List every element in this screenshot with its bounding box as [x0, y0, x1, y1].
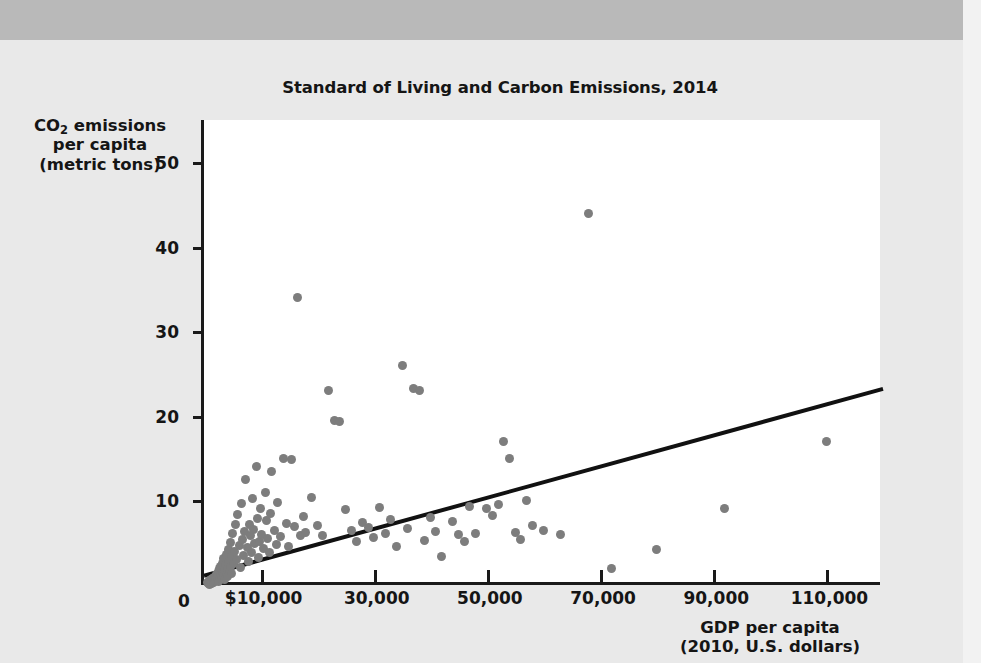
- scatter-point: [284, 542, 293, 551]
- scatter-point: [244, 557, 253, 566]
- scatter-point: [313, 521, 322, 530]
- y-axis-tick: 10: [193, 500, 204, 503]
- x-tick-label-zero: 0: [178, 591, 190, 611]
- y-axis-label-co: CO: [34, 116, 60, 135]
- scatter-point: [253, 514, 262, 523]
- scatter-point: [528, 521, 537, 530]
- scatter-point: [227, 569, 236, 578]
- y-axis-label-subscript: 2: [60, 123, 68, 137]
- scatter-point: [231, 520, 240, 529]
- scatter-point: [293, 293, 302, 302]
- chart-figure: Standard of Living and Carbon Emissions,…: [0, 40, 963, 663]
- scatter-point: [228, 529, 237, 538]
- scatter-point: [437, 552, 446, 561]
- scatter-point: [460, 537, 469, 546]
- x-axis-title-line1: GDP per capita: [600, 618, 940, 637]
- x-axis-title-line2: (2010, U.S. dollars): [600, 637, 940, 656]
- page-right-margin: [963, 0, 981, 663]
- scatter-point: [236, 563, 245, 572]
- y-axis-tick-label: 30: [155, 322, 179, 342]
- scatter-point: [307, 493, 316, 502]
- figure-page: Standard of Living and Carbon Emissions,…: [0, 0, 981, 663]
- scatter-point: [556, 530, 565, 539]
- scatter-point: [415, 386, 424, 395]
- y-axis-tick-label: 20: [155, 407, 179, 427]
- scatter-point: [261, 488, 270, 497]
- scatter-point: [252, 462, 261, 471]
- y-axis-tick-label: 50: [155, 153, 179, 173]
- scatter-point: [254, 553, 263, 562]
- scatter-point: [607, 564, 616, 573]
- scatter-point: [426, 513, 435, 522]
- scatter-point: [522, 496, 531, 505]
- x-axis-tick: 110,000: [826, 570, 829, 583]
- x-axis-tick: 30,000: [374, 570, 377, 583]
- scatter-point: [273, 498, 282, 507]
- scatter-point: [318, 531, 327, 540]
- y-axis-tick-label: 10: [155, 491, 179, 511]
- x-axis-tick: 90,000: [713, 570, 716, 583]
- chart-title: Standard of Living and Carbon Emissions,…: [200, 78, 800, 97]
- x-axis-title: GDP per capita (2010, U.S. dollars): [600, 618, 940, 657]
- x-axis-tick-label: 110,000: [791, 588, 868, 608]
- scatter-point: [505, 454, 514, 463]
- y-axis-title-line2: per capita: [10, 135, 190, 154]
- scatter-point: [265, 548, 274, 557]
- y-axis-title-line1: CO2 emissions: [10, 116, 190, 135]
- y-axis-tick: 20: [193, 416, 204, 419]
- page-header-band: [0, 0, 963, 40]
- scatter-point: [375, 503, 384, 512]
- x-axis-tick-label: 70,000: [570, 588, 636, 608]
- scatter-point: [364, 523, 373, 532]
- scatter-point: [381, 529, 390, 538]
- scatter-point: [324, 386, 333, 395]
- y-axis-tick: 50: [193, 162, 204, 165]
- x-axis-tick-label: 50,000: [457, 588, 523, 608]
- scatter-point: [386, 515, 395, 524]
- x-axis-tick: 70,000: [600, 570, 603, 583]
- scatter-point: [471, 529, 480, 538]
- scatter-point: [403, 524, 412, 533]
- plot-frame: 10203040500$10,00030,00050,00070,00090,0…: [201, 120, 880, 585]
- plot-area: [204, 120, 883, 585]
- scatter-point: [494, 500, 503, 509]
- x-axis-tick-label: 90,000: [683, 588, 749, 608]
- scatter-point: [420, 536, 429, 545]
- scatter-point: [584, 209, 593, 218]
- y-axis-tick-label: 40: [155, 238, 179, 258]
- scatter-point: [272, 540, 281, 549]
- x-axis-tick: $10,000: [261, 570, 264, 583]
- y-axis-tick: 30: [193, 331, 204, 334]
- scatter-point: [822, 437, 831, 446]
- x-axis-tick-label: $10,000: [225, 588, 302, 608]
- x-axis-tick: 50,000: [487, 570, 490, 583]
- scatter-point: [299, 512, 308, 521]
- scatter-point: [398, 361, 407, 370]
- scatter-point: [226, 538, 235, 547]
- scatter-point: [256, 504, 265, 513]
- y-axis-label-rest: emissions: [68, 116, 166, 135]
- y-axis-tick: 40: [193, 247, 204, 250]
- scatter-point: [347, 526, 356, 535]
- scatter-point: [263, 534, 272, 543]
- x-axis-tick-label: 30,000: [344, 588, 410, 608]
